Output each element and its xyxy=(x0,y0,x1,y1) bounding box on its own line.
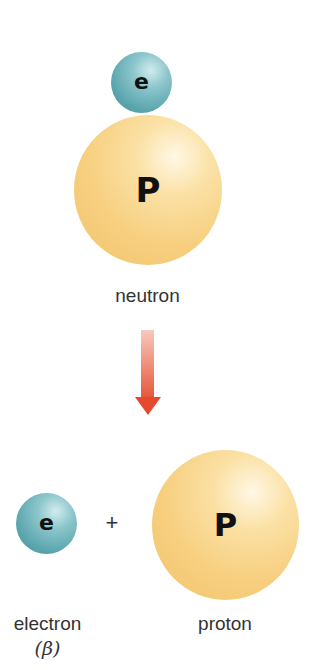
electron-sphere: e xyxy=(16,493,77,554)
neutron-proton-sphere: P xyxy=(74,115,222,265)
proton-sphere: P xyxy=(152,450,299,600)
electron-label: electron xyxy=(0,613,95,635)
proton-symbol: P xyxy=(214,506,237,544)
proton-label: proton xyxy=(180,613,270,635)
neutron-electron-sphere: e xyxy=(111,52,172,113)
plus-sign: + xyxy=(100,510,124,536)
arrow-shaft xyxy=(141,330,154,398)
electron-symbol: e xyxy=(134,69,149,94)
electron-symbol: e xyxy=(39,510,54,535)
arrow-down-icon xyxy=(135,397,161,415)
neutron-label: neutron xyxy=(100,285,195,307)
beta-label: (β) xyxy=(20,637,75,659)
proton-symbol: P xyxy=(136,170,161,210)
